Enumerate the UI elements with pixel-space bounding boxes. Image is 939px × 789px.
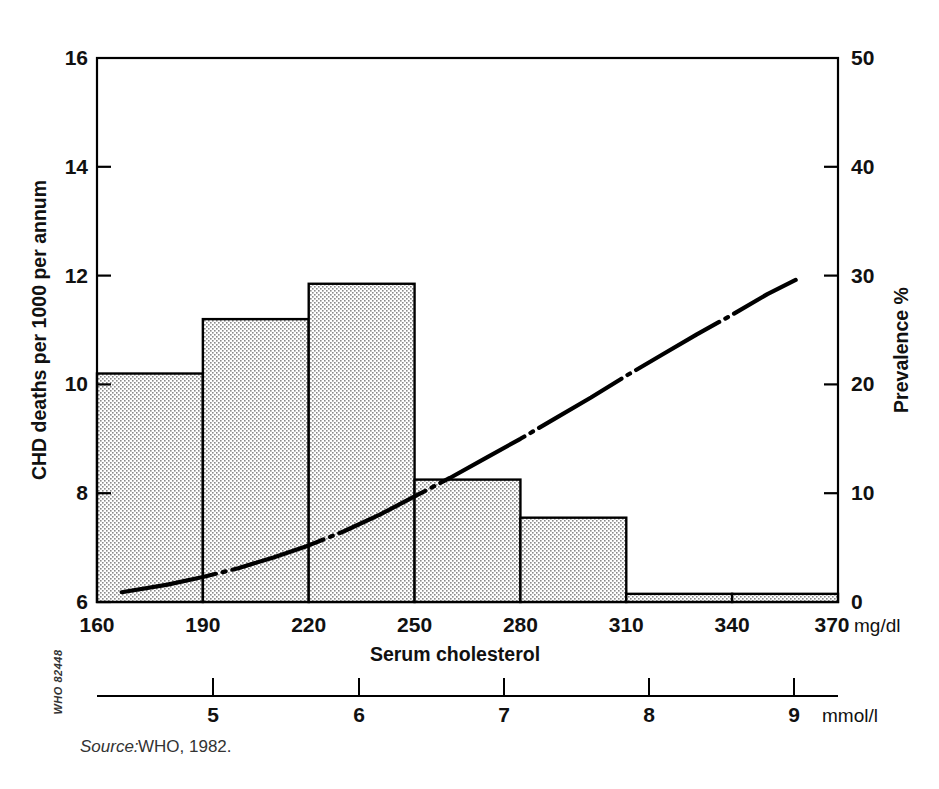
y-tick-label-6: 6 xyxy=(76,590,88,613)
bar-340-370 xyxy=(732,594,838,602)
y-tick-label-12: 12 xyxy=(65,264,88,287)
x-axis-title: Serum cholesterol xyxy=(370,643,540,665)
y2-tick-50: 50 xyxy=(851,46,874,69)
x-tick-label-250: 250 xyxy=(397,613,432,636)
y2-tick-label-50: 50 xyxy=(851,46,874,69)
y2-tick-label-10: 10 xyxy=(851,481,874,504)
x-tick-label-280: 280 xyxy=(503,613,538,636)
y2-tick-label-20: 20 xyxy=(851,372,874,395)
bar-190-220 xyxy=(203,319,309,602)
x-tick-label-160: 160 xyxy=(79,613,114,636)
y2-tick-0: 0 xyxy=(851,590,863,613)
x-tick-label-190: 190 xyxy=(185,613,220,636)
chart-svg: 6 8 10 12 14 16 CHD deaths per 1000 per … xyxy=(0,0,939,789)
source-value: WHO, 1982. xyxy=(138,737,232,756)
bar-310-340 xyxy=(626,594,732,602)
x2-tick-label-8: 8 xyxy=(643,703,655,726)
bar-250-280 xyxy=(415,480,521,602)
x-tick-label-220: 220 xyxy=(291,613,326,636)
bar-220-250 xyxy=(309,284,415,602)
who-plate-code: WHO 82448 xyxy=(52,649,64,714)
bar-280-310 xyxy=(520,518,626,602)
x2-tick-label-7: 7 xyxy=(498,703,510,726)
x2-tick-label-9: 9 xyxy=(788,703,800,726)
y-tick-16: 16 xyxy=(65,46,88,69)
x-tick-label-310: 310 xyxy=(609,613,644,636)
x2-tick-label-5: 5 xyxy=(207,703,219,726)
y-tick-label-8: 8 xyxy=(76,481,88,504)
y-tick-label-10: 10 xyxy=(65,372,88,395)
y2-tick-label-40: 40 xyxy=(851,155,874,178)
y-tick-label-16: 16 xyxy=(65,46,88,69)
source-prefix: Source: xyxy=(80,737,139,756)
y2-tick-label-30: 30 xyxy=(851,264,874,287)
x-tick-label-340: 340 xyxy=(715,613,750,636)
y2-tick-label-0: 0 xyxy=(851,590,863,613)
y-tick-label-14: 14 xyxy=(65,155,89,178)
x2-tick-label-6: 6 xyxy=(353,703,365,726)
x2-axis-unit-mmol: mmol/l xyxy=(822,705,878,726)
y-axis-title-right: Prevalence % xyxy=(890,287,912,413)
source-caption: Source: WHO, 1982. xyxy=(80,737,232,756)
x-tick-label-370: 370 xyxy=(814,613,849,636)
bar-160-190 xyxy=(97,374,203,602)
chart-figure: 6 8 10 12 14 16 CHD deaths per 1000 per … xyxy=(0,0,939,789)
x-axis-unit-mgdl: mg/dl xyxy=(854,615,900,636)
y-axis-title-left: CHD deaths per 1000 per annum xyxy=(28,180,50,480)
